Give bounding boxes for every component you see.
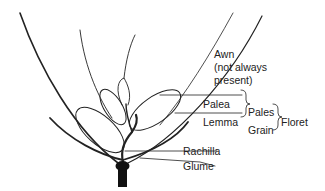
inner-lemma-left — [80, 30, 112, 118]
label-awn: Awn — [214, 48, 234, 60]
floret-top-stem — [124, 35, 135, 78]
outer-glume-left — [20, 13, 118, 163]
label-awn-note-1: (not always — [214, 61, 267, 73]
label-lemma: Lemma — [203, 116, 238, 128]
label-pales: Pales — [248, 106, 274, 118]
glume-arc-left — [50, 118, 123, 160]
label-floret: Floret — [281, 116, 308, 128]
base-joint — [116, 161, 130, 171]
label-palea: Palea — [203, 98, 230, 110]
outer-glume-right — [128, 16, 262, 163]
label-grain: Grain — [248, 124, 274, 136]
label-awn-note-2: present) — [214, 74, 253, 86]
label-glume: Glume — [183, 160, 214, 172]
label-rachilla: Rachilla — [183, 145, 220, 157]
spikelet-diagram — [0, 0, 325, 191]
